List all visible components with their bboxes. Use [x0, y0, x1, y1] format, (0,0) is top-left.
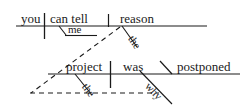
word-direct-object: reason	[120, 12, 154, 25]
complement-divider	[160, 61, 172, 74]
indirect-object-stem	[59, 26, 66, 35]
word-sub-complement: postponed	[177, 60, 230, 73]
sentence-diagram: you can tell me reason the project the w…	[0, 0, 251, 111]
word-sub-subject: project	[66, 60, 102, 73]
word-indirect-object: me	[68, 24, 81, 35]
word-sub-verb: was	[123, 60, 143, 73]
word-subject: you	[21, 12, 41, 25]
